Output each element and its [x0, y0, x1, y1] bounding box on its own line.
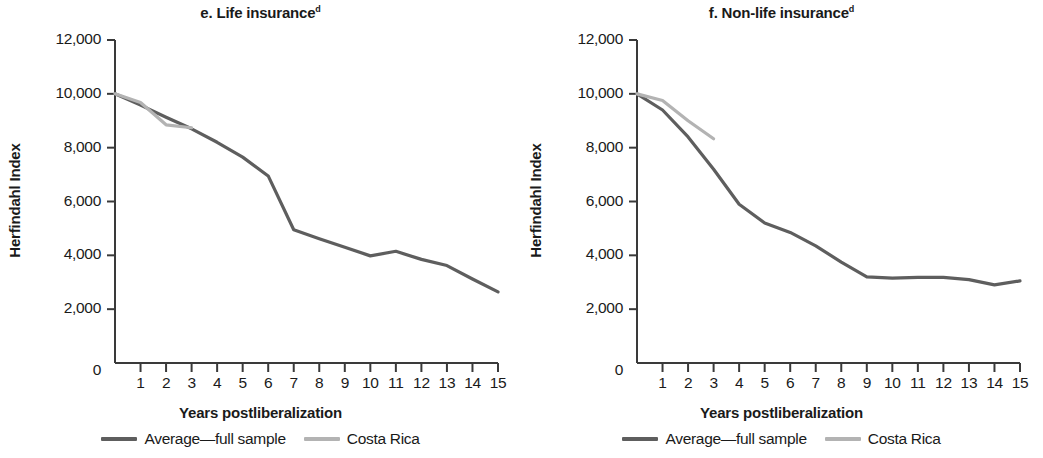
legend-label-average-full-sample: Average—full sample	[144, 430, 285, 448]
y-tick-label: 8,000	[521, 138, 623, 156]
y-tick-label: 0	[521, 361, 623, 379]
legend-life: Average—full sample Costa Rica	[0, 430, 521, 448]
legend-item-costa-rica[interactable]: Costa Rica	[825, 430, 941, 448]
y-tick-label: 12,000	[521, 30, 623, 48]
y-tick-label: 0	[0, 361, 101, 379]
x-tick-label: 15	[1005, 374, 1035, 392]
panel-non-life-insurance: f. Non-life insuranced Herfindahl Index …	[521, 0, 1042, 458]
legend-item-average-full-sample[interactable]: Average—full sample	[622, 430, 806, 448]
plot-area-nonlife: 12,00010,0008,0006,0004,0002,0000 123456…	[521, 0, 1042, 400]
y-tick-label: 10,000	[0, 84, 101, 102]
y-axis-ticks	[107, 40, 115, 309]
x-axis-label-life: Years postliberalization	[0, 404, 521, 421]
figure-panels-e-f: e. Life insuranced Herfindahl Index 12,0…	[0, 0, 1043, 458]
y-tick-label: 4,000	[0, 245, 101, 263]
series-line-average-full-sample	[115, 94, 498, 292]
x-axis-ticks	[663, 363, 1020, 372]
legend-label-costa-rica: Costa Rica	[347, 430, 420, 448]
x-axis-ticks	[141, 363, 498, 372]
axes-life	[107, 40, 498, 372]
legend-swatch-costa-rica-icon	[825, 437, 861, 441]
y-tick-label: 6,000	[0, 192, 101, 210]
legend-label-costa-rica: Costa Rica	[868, 430, 941, 448]
legend-item-costa-rica[interactable]: Costa Rica	[304, 430, 420, 448]
y-axis-ticks	[629, 40, 637, 309]
series-group-life	[115, 94, 498, 292]
series-line-average-full-sample	[637, 94, 1020, 285]
legend-item-average-full-sample[interactable]: Average—full sample	[101, 430, 285, 448]
y-tick-label: 10,000	[521, 84, 623, 102]
series-group-nonlife	[637, 94, 1020, 285]
plot-area-life: 12,00010,0008,0006,0004,0002,0000 123456…	[0, 0, 521, 400]
y-tick-label: 6,000	[521, 192, 623, 210]
axes-nonlife	[629, 40, 1020, 372]
legend-swatch-costa-rica-icon	[304, 437, 340, 441]
y-tick-label: 12,000	[0, 30, 101, 48]
y-tick-label: 2,000	[521, 299, 623, 317]
y-tick-label: 8,000	[0, 138, 101, 156]
legend-label-average-full-sample: Average—full sample	[665, 430, 806, 448]
x-axis-label-nonlife: Years postliberalization	[521, 404, 1042, 421]
panel-life-insurance: e. Life insuranced Herfindahl Index 12,0…	[0, 0, 521, 458]
legend-swatch-average-icon	[622, 437, 658, 441]
y-tick-label: 2,000	[0, 299, 101, 317]
y-tick-label: 4,000	[521, 245, 623, 263]
x-tick-label: 15	[483, 374, 513, 392]
legend-nonlife: Average—full sample Costa Rica	[521, 430, 1042, 448]
legend-swatch-average-icon	[101, 437, 137, 441]
